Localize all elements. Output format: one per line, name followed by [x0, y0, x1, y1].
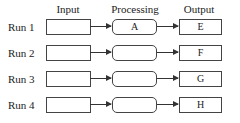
processing-box — [112, 97, 157, 113]
header-input: Input — [56, 3, 79, 15]
arrow-right-icon — [90, 52, 111, 53]
output-box: G — [179, 71, 222, 87]
processing-box — [112, 45, 157, 61]
input-box — [46, 97, 91, 113]
processing-box — [112, 71, 157, 87]
processing-box: A — [112, 19, 157, 35]
run-row-4: Run 4 H — [0, 97, 240, 113]
output-box: E — [179, 19, 222, 35]
arrow-right-icon — [90, 104, 111, 105]
run-row-2: Run 2 F — [0, 45, 240, 61]
input-box — [46, 45, 91, 61]
arrow-right-icon — [157, 104, 178, 105]
arrow-right-icon — [90, 78, 111, 79]
run-row-1: Run 1 A E — [0, 19, 240, 35]
run-label: Run 4 — [8, 98, 35, 112]
run-row-3: Run 3 G — [0, 71, 240, 87]
header-output: Output — [184, 3, 215, 15]
input-box — [46, 19, 91, 35]
run-label: Run 3 — [8, 72, 35, 86]
header-processing: Processing — [111, 3, 159, 15]
run-label: Run 1 — [8, 20, 35, 34]
arrow-right-icon — [90, 26, 111, 27]
arrow-right-icon — [157, 52, 178, 53]
arrow-right-icon — [157, 78, 178, 79]
output-box: H — [179, 97, 222, 113]
arrow-right-icon — [157, 26, 178, 27]
run-label: Run 2 — [8, 46, 35, 60]
input-box — [46, 71, 91, 87]
output-box: F — [179, 45, 222, 61]
